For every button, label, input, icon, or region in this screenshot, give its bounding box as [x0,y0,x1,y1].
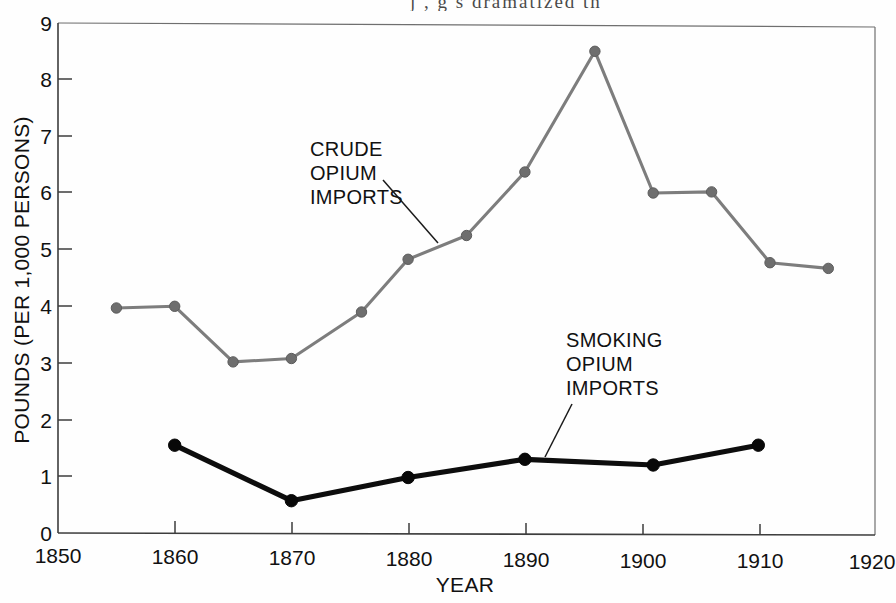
crude-leader-line [383,180,438,243]
smoking-label-line-3: IMPORTS [566,377,659,399]
data-point [520,167,530,177]
data-point [403,254,413,264]
y-tick-label-0: 0 [40,522,52,545]
x-axis-tick-labels: 1850 1860 1870 1880 1890 1900 1910 1920 [35,544,896,573]
data-point [356,307,366,317]
y-tick-label-6: 6 [40,181,52,204]
y-axis-tick-labels: 9 8 7 6 5 4 3 2 1 0 [40,12,52,545]
x-tick-label-1890: 1890 [503,548,550,571]
data-point [402,471,414,483]
x-tick-label-1900: 1900 [620,549,667,572]
data-point [752,439,764,451]
data-point [461,230,471,240]
data-point [519,453,531,465]
data-point [170,301,180,311]
y-tick-label-9: 9 [40,12,52,35]
x-tick-label-1860: 1860 [152,545,199,568]
data-point [706,187,716,197]
data-point [590,46,600,56]
smoking-label-line-2: OPIUM [566,353,633,375]
data-point [648,188,658,198]
frame-top-edge [58,23,875,27]
y-tick-label-3: 3 [40,352,52,375]
data-point [765,258,775,268]
data-point [647,459,659,471]
opium-imports-line-chart: 9 8 7 6 5 4 3 2 1 0 1850 1860 1870 1880 … [0,0,896,603]
smoking-leader-line [545,404,572,457]
x-tick-label-1880: 1880 [386,547,433,570]
y-tick-label-1: 1 [40,465,52,488]
x-tick-label-1910: 1910 [737,549,784,572]
series-smoking-opium [169,439,765,507]
crude-label-line-2: OPIUM [310,162,377,184]
x-tick-label-1870: 1870 [269,546,316,569]
x-axis-line [58,533,875,535]
smoking-label-line-1: SMOKING [566,329,663,351]
data-point [111,303,121,313]
y-tick-label-8: 8 [40,68,52,91]
series-line [116,51,828,362]
data-point [286,353,296,363]
y-tick-label-2: 2 [40,409,52,432]
data-point [823,263,833,273]
annotation-smoking-opium: SMOKING OPIUM IMPORTS [545,329,663,457]
plot-frame [58,23,875,535]
x-axis-title: YEAR [436,573,494,596]
series-line [175,445,759,501]
y-tick-label-5: 5 [40,238,52,261]
y-tick-label-4: 4 [40,295,52,318]
data-point [285,495,297,507]
crude-label-line-1: CRUDE [310,138,383,160]
chart-figure: j , g s dramatized th 9 8 7 6 [0,0,896,603]
series-layer [111,46,833,507]
data-point [169,439,181,451]
x-tick-label-1920: 1920 [849,550,896,573]
x-tick-label-1850: 1850 [35,544,82,567]
y-axis-ticks [58,79,72,476]
y-axis-title: POUNDS (PER 1,000 PERSONS) [10,116,33,444]
series-crude-opium [111,46,833,367]
annotation-crude-opium: CRUDE OPIUM IMPORTS [310,138,438,243]
y-tick-label-7: 7 [40,125,52,148]
crude-label-line-3: IMPORTS [310,186,403,208]
data-point [228,357,238,367]
